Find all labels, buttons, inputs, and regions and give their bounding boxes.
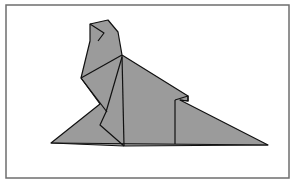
origami-seal-diagram (0, 0, 291, 184)
